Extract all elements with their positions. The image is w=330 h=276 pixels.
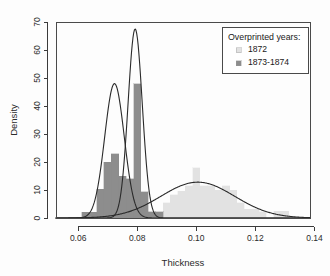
histogram-bar (281, 211, 288, 218)
legend-entry-label: 1873-1874 (248, 57, 289, 67)
y-axis-tick-label: 60 (32, 45, 42, 55)
histogram-bar (178, 191, 185, 218)
legend-title: Overprinted years: (228, 32, 300, 42)
histogram-bar (215, 190, 222, 218)
histogram-bar (237, 203, 244, 218)
y-axis-tick-label: 20 (32, 157, 42, 167)
y-axis-tick-label: 30 (32, 129, 42, 139)
x-axis-tick-label: 0.08 (129, 233, 146, 243)
x-axis-tick-label: 0.12 (247, 233, 264, 243)
histogram-bar (193, 168, 200, 218)
y-axis-tick-label: 0 (32, 215, 42, 220)
legend-entry-label: 1872 (248, 44, 267, 54)
histogram-bar (97, 189, 104, 218)
x-axis-tick-label: 0.10 (188, 233, 205, 243)
histogram-bar (222, 186, 229, 218)
x-axis-title: Thickness (162, 257, 205, 268)
chart-canvas: 0.060.080.100.120.14Thickness01020304050… (0, 0, 330, 276)
histogram-series-1873-1874 (82, 84, 163, 218)
y-axis-tick-label: 50 (32, 73, 42, 83)
legend-swatch-1872 (236, 48, 241, 53)
histogram-bar (163, 203, 170, 218)
histogram-bar (207, 186, 214, 218)
histogram-bar (104, 162, 111, 218)
density-histogram-figure: 0.060.080.100.120.14Thickness01020304050… (0, 0, 330, 276)
histogram-bar (170, 195, 177, 218)
y-axis-tick-label: 40 (32, 101, 42, 111)
histogram-bar (185, 186, 192, 218)
histogram-bar (244, 209, 251, 218)
histogram-bar (134, 84, 141, 218)
x-axis-tick-label: 0.06 (70, 233, 87, 243)
histogram-bar (252, 209, 259, 218)
histogram-bar (259, 212, 266, 218)
legend-swatch-1873-1874 (236, 61, 241, 66)
y-axis-tick-label: 10 (32, 185, 42, 195)
x-axis-tick-label: 0.14 (306, 233, 323, 243)
y-axis-tick-label: 70 (32, 17, 42, 27)
histogram-series-1872 (163, 168, 289, 218)
histogram-bar (200, 186, 207, 218)
y-axis-title: Density (8, 104, 19, 136)
